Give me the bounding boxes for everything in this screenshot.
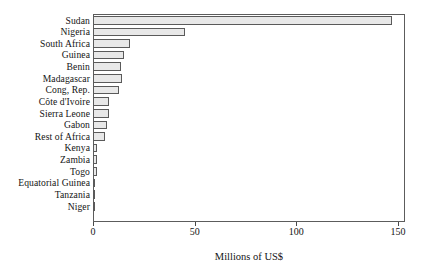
category-label: South Africa (0, 38, 90, 50)
bar (93, 179, 95, 188)
category-label: Rest of Africa (0, 131, 90, 143)
bar (93, 121, 107, 130)
category-label: Cong, Rep. (0, 84, 90, 96)
bar (93, 132, 105, 141)
bar (93, 144, 97, 153)
bar (93, 74, 122, 83)
category-label: Sudan (0, 15, 90, 27)
x-tick-label: 50 (190, 226, 200, 238)
category-label: Togo (0, 166, 90, 178)
category-label: Madagascar (0, 73, 90, 85)
x-axis-title: Millions of US$ (93, 251, 405, 262)
bar (93, 62, 121, 71)
category-label: Niger (0, 201, 90, 213)
category-axis-labels: SudanNigeriaSouth AfricaGuineaBeninMadag… (0, 14, 90, 212)
category-label: Tanzania (0, 189, 90, 201)
bar (93, 51, 124, 60)
bar (93, 202, 95, 211)
bars-layer (93, 14, 405, 212)
x-axis-ticks: 050100150 (93, 222, 405, 228)
category-label: Equatorial Guinea (0, 177, 90, 189)
category-label: Nigeria (0, 26, 90, 38)
bar (93, 28, 185, 37)
category-label: Sierra Leone (0, 108, 90, 120)
bar (93, 167, 97, 176)
bar (93, 190, 95, 199)
bar (93, 109, 109, 118)
category-label: Guinea (0, 49, 90, 61)
bar (93, 155, 97, 164)
category-label: Zambia (0, 154, 90, 166)
category-label: Gabon (0, 119, 90, 131)
bar (93, 86, 119, 95)
x-tick-label: 0 (91, 226, 96, 238)
x-tick-label: 150 (391, 226, 406, 238)
category-label: Côte d'Ivoire (0, 96, 90, 108)
category-label: Benin (0, 61, 90, 73)
bar (93, 39, 130, 48)
bar (93, 97, 109, 106)
x-tick-label: 100 (289, 226, 304, 238)
bar (93, 16, 392, 25)
bar-chart: SudanNigeriaSouth AfricaGuineaBeninMadag… (0, 0, 424, 279)
category-label: Kenya (0, 142, 90, 154)
